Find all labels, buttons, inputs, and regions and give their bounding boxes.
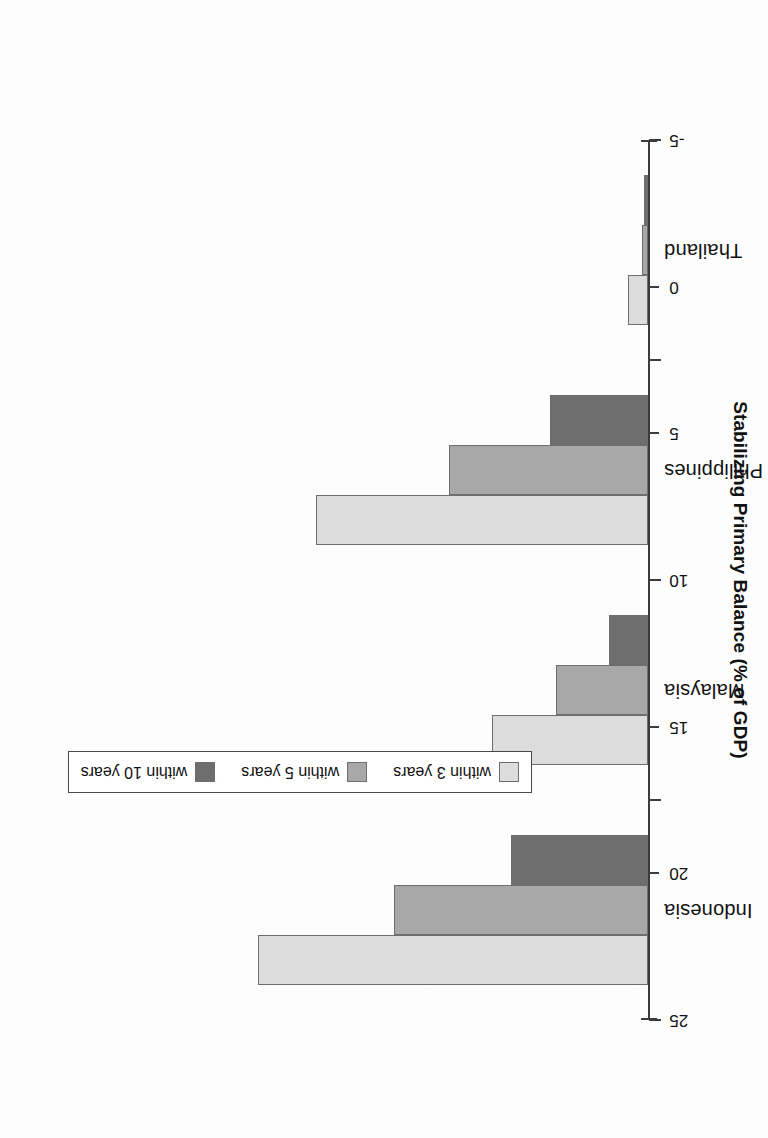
value-axis-title-text: Stabilizing Primary Balance (% of GDP) bbox=[729, 401, 751, 759]
bar bbox=[449, 445, 648, 495]
bar bbox=[395, 885, 649, 935]
category-axis-tick bbox=[649, 139, 661, 141]
legend-item: within 10 years bbox=[81, 762, 216, 782]
legend-item: within 3 years bbox=[393, 762, 519, 782]
bar bbox=[609, 615, 648, 665]
legend-label: within 3 years bbox=[393, 763, 491, 781]
value-axis-tick-label: 25 bbox=[669, 1010, 688, 1030]
category-axis-tick bbox=[649, 579, 661, 581]
bar-chart-figure: Stabilizing Primary Balance (% of GDP) 2… bbox=[0, 0, 768, 1138]
bar bbox=[644, 175, 648, 225]
legend-swatch bbox=[499, 762, 519, 782]
rotated-page-canvas: Stabilizing Primary Balance (% of GDP) 2… bbox=[0, 0, 768, 1138]
bar bbox=[258, 935, 648, 985]
bar bbox=[642, 225, 648, 275]
bar bbox=[629, 275, 649, 325]
value-axis-tick-label: 5 bbox=[669, 423, 679, 443]
value-axis-tick: 15 bbox=[649, 726, 659, 728]
value-axis-tick-label: 0 bbox=[669, 277, 679, 297]
value-axis-tick-label: 15 bbox=[669, 717, 688, 737]
value-axis-tick: 0 bbox=[649, 286, 659, 288]
chart-legend: within 3 yearswithin 5 yearswithin 10 ye… bbox=[68, 751, 532, 793]
bar bbox=[317, 495, 649, 545]
category-label: Indonesia bbox=[664, 899, 753, 922]
value-axis-title: Stabilizing Primary Balance (% of GDP) bbox=[726, 140, 754, 1020]
value-axis-tick: 20 bbox=[649, 872, 659, 874]
legend-item: within 5 years bbox=[241, 762, 367, 782]
value-axis-tick: 5 bbox=[649, 432, 659, 434]
legend-swatch bbox=[347, 762, 367, 782]
category-label: Malaysia bbox=[664, 679, 745, 702]
plot-area: 2520151050-5 IndonesiaMalaysiaPhilippine… bbox=[65, 140, 650, 1020]
bar bbox=[556, 665, 648, 715]
category-label: Thailand bbox=[664, 239, 742, 262]
legend-swatch bbox=[195, 762, 215, 782]
value-axis-tick-label: 10 bbox=[669, 570, 688, 590]
category-axis-tick bbox=[649, 359, 661, 361]
bar bbox=[512, 835, 649, 885]
legend-label: within 5 years bbox=[241, 763, 339, 781]
category-label: Philippines bbox=[664, 459, 763, 482]
legend-label: within 10 years bbox=[81, 763, 188, 781]
category-axis-tick bbox=[649, 1019, 661, 1021]
category-axis-tick bbox=[649, 799, 661, 801]
value-axis-tick-label: -5 bbox=[669, 130, 685, 150]
bar bbox=[551, 395, 649, 445]
value-axis-tick-label: 20 bbox=[669, 863, 688, 883]
